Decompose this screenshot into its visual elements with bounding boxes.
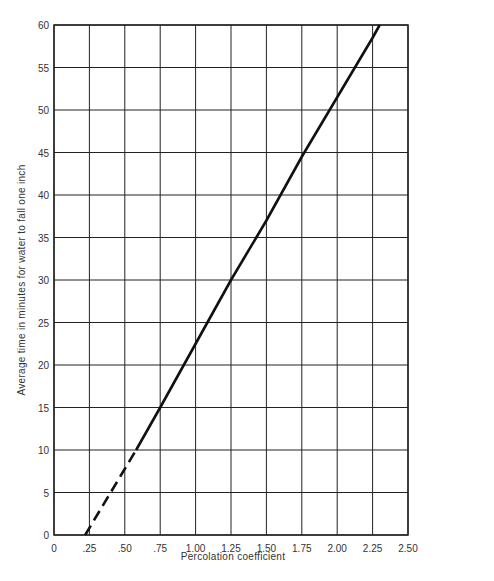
y-axis-label: Average time in minutes for water to fal…	[16, 164, 27, 395]
x-tick-label: 1.75	[292, 543, 312, 554]
y-tick-label: 0	[43, 530, 49, 541]
x-tick-label: 2.25	[363, 543, 383, 554]
x-tick-label: 0	[51, 543, 57, 554]
y-tick-label: 25	[38, 318, 50, 329]
y-tick-label: 55	[38, 63, 50, 74]
y-tick-label: 20	[38, 360, 50, 371]
x-axis-label: Percolation coefficient	[181, 551, 286, 562]
percolation-chart: 051015202530354045505560 0.25.50.751.001…	[0, 0, 494, 581]
y-tick-label: 50	[38, 105, 50, 116]
x-tick-label: .75	[153, 543, 167, 554]
x-tick-label: .50	[118, 543, 132, 554]
x-tick-label: .25	[82, 543, 96, 554]
y-tick-label: 60	[38, 20, 50, 31]
y-tick-label: 35	[38, 233, 50, 244]
y-tick-label: 10	[38, 445, 50, 456]
y-tick-label: 45	[38, 148, 50, 159]
x-tick-label: 2.50	[398, 543, 418, 554]
y-tick-label: 15	[38, 403, 50, 414]
x-tick-label: 2.00	[327, 543, 347, 554]
y-tick-label: 40	[38, 190, 50, 201]
y-axis-ticks: 051015202530354045505560	[38, 20, 50, 541]
y-tick-label: 5	[43, 488, 49, 499]
y-tick-label: 30	[38, 275, 50, 286]
